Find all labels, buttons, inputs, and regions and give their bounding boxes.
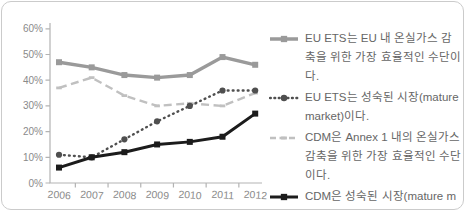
legend-label: CDM은 성숙된 시장(mature market)이다. <box>305 187 461 210</box>
data-point <box>89 64 95 70</box>
cdm-mature-line-icon <box>269 191 299 203</box>
series-line-2 <box>59 78 255 106</box>
y-tick-label: 30% <box>23 100 43 111</box>
data-point <box>154 118 160 124</box>
x-tick-label: 2008 <box>113 188 137 202</box>
y-tick-label: 0% <box>29 178 44 189</box>
legend-label: EU ETS는 EU 내 온실가스 감축을 위한 가장 효율적인 수단이다. <box>305 29 461 86</box>
data-point <box>187 103 193 109</box>
data-point <box>56 59 62 65</box>
data-point <box>220 134 226 140</box>
y-tick-label: 60% <box>23 23 43 34</box>
y-tick-label: 10% <box>23 152 43 163</box>
data-point <box>281 36 287 42</box>
x-tick-label: 2009 <box>145 188 169 202</box>
data-point <box>252 62 258 68</box>
x-tick-label: 2010 <box>178 188 202 202</box>
chart-card: 0%10%20%30%40%50%60%20062007200820092010… <box>1 1 464 210</box>
data-point <box>220 105 226 108</box>
legend-item-eu-ets-mature: EU ETS는 성숙된 시장(mature market)이다. <box>269 88 461 126</box>
data-point <box>89 154 95 160</box>
legend-item-eu-ets-efficient: EU ETS는 EU 내 온실가스 감축을 위한 가장 효율적인 수단이다. <box>269 29 461 86</box>
data-point <box>154 141 160 147</box>
y-tick-label: 40% <box>23 75 43 86</box>
data-point <box>121 136 127 142</box>
data-point <box>281 95 288 102</box>
eu-ets-efficient-line-icon <box>269 33 299 45</box>
data-point <box>56 165 62 171</box>
line-chart: 0%10%20%30%40%50%60%20062007200820092010… <box>2 2 272 210</box>
data-point <box>187 139 193 145</box>
data-point <box>122 94 128 97</box>
data-point <box>252 111 258 117</box>
legend-label: CDM은 Annex 1 내의 온실가스 감축을 위한 가장 효율적인 수단이다… <box>305 128 461 185</box>
series-line-0 <box>59 57 255 78</box>
legend: EU ETS는 EU 내 온실가스 감축을 위한 가장 효율적인 수단이다. E… <box>269 29 461 210</box>
data-point <box>89 76 95 79</box>
y-tick-label: 50% <box>23 49 43 60</box>
x-tick-label: 2012 <box>243 188 267 202</box>
data-point <box>220 54 226 60</box>
x-tick-label: 2006 <box>47 188 71 202</box>
data-point <box>56 152 62 158</box>
legend-label: EU ETS는 성숙된 시장(mature market)이다. <box>305 88 461 126</box>
x-tick-label: 2007 <box>80 188 104 202</box>
data-point <box>281 194 287 200</box>
data-point <box>281 137 287 140</box>
plot-area: 0%10%20%30%40%50%60%20062007200820092010… <box>2 2 272 210</box>
cdm-efficient-line-icon <box>269 132 299 144</box>
data-point <box>56 87 62 90</box>
data-point <box>219 87 225 93</box>
data-point <box>121 149 127 155</box>
y-tick-label: 20% <box>23 126 43 137</box>
data-point <box>121 72 127 78</box>
data-point <box>252 87 258 93</box>
data-point <box>154 105 160 108</box>
x-tick-label: 2011 <box>211 188 235 202</box>
data-point <box>154 75 160 81</box>
legend-item-cdm-mature: CDM은 성숙된 시장(mature market)이다. <box>269 187 461 210</box>
eu-ets-mature-line-icon <box>269 92 299 104</box>
data-point <box>187 72 193 78</box>
legend-item-cdm-efficient: CDM은 Annex 1 내의 온실가스 감축을 위한 가장 효율적인 수단이다… <box>269 128 461 185</box>
